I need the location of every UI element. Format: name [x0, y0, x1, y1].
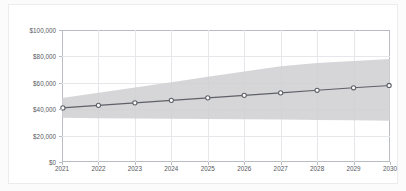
x-tick-label: 2021 [55, 165, 69, 173]
y-axis-tick [59, 136, 62, 137]
data-point-marker [242, 93, 246, 97]
x-tick-label: 2024 [164, 165, 178, 173]
y-tick-label: $40,000 [33, 106, 56, 113]
x-tick-label: 2025 [201, 165, 215, 173]
screenshot-root: $0$20,000$40,000$60,000$80,000$100,000 2… [0, 0, 406, 191]
y-tick-label: $20,000 [33, 132, 56, 139]
y-axis-labels: $0$20,000$40,000$60,000$80,000$100,000 [9, 30, 59, 162]
x-tick-label: 2022 [91, 165, 105, 173]
chart-data-layer [62, 30, 390, 162]
x-axis-labels: 2021202220232024202520262027202820292030 [62, 165, 390, 177]
data-point-marker [169, 98, 173, 102]
x-tick-label: 2029 [347, 165, 361, 173]
data-point-marker [279, 91, 283, 95]
y-axis-tick [59, 56, 62, 57]
y-axis-tick [59, 109, 62, 110]
y-axis-tick [59, 30, 62, 31]
x-tick-label: 2028 [310, 165, 324, 173]
y-tick-label: $80,000 [33, 53, 56, 60]
x-tick-label: 2027 [274, 165, 288, 173]
x-tick-label: 2030 [383, 165, 397, 173]
y-axis-tick [59, 83, 62, 84]
y-tick-label: $60,000 [33, 79, 56, 86]
data-point-marker [387, 83, 391, 87]
plot-area [62, 30, 390, 162]
x-tick-label: 2023 [128, 165, 142, 173]
y-tick-label: $100,000 [30, 27, 56, 34]
data-point-marker [206, 96, 210, 100]
chart-card: $0$20,000$40,000$60,000$80,000$100,000 2… [8, 4, 398, 184]
confidence-band [62, 59, 390, 121]
data-point-marker [133, 101, 137, 105]
data-point-marker [96, 103, 100, 107]
data-point-marker [315, 88, 319, 92]
data-point-marker [351, 86, 355, 90]
x-tick-label: 2026 [237, 165, 251, 173]
